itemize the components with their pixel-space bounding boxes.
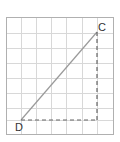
point-label-d: D [15,122,23,133]
point-label-c: C [98,22,106,33]
segment-dc [21,32,97,120]
